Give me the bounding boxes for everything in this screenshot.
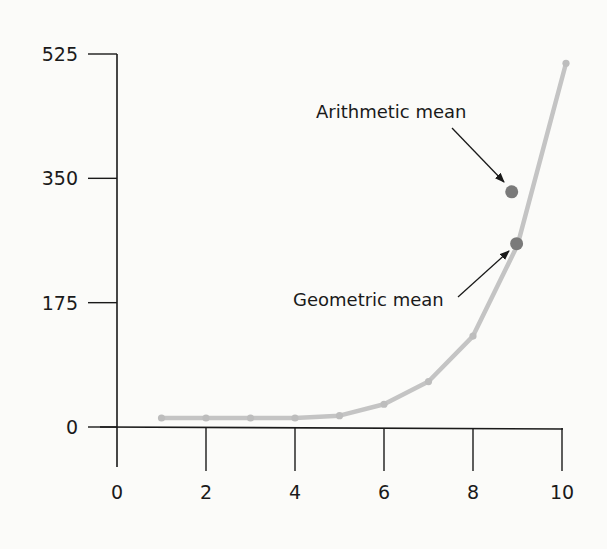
y-tick-label: 350 [42, 167, 78, 189]
data-point [336, 412, 343, 419]
data-point [425, 378, 432, 385]
x-axis [100, 427, 563, 429]
annotation-geometric-mean: Geometric mean [293, 251, 509, 310]
x-tick-label: 10 [550, 481, 574, 503]
x-tick-label: 4 [289, 481, 301, 503]
data-point [562, 60, 569, 67]
x-tick-label: 0 [111, 481, 123, 503]
geometric-mean-label: Geometric mean [293, 289, 444, 310]
y-tick-label: 0 [66, 416, 78, 438]
y-tick-label: 525 [42, 43, 78, 65]
chart: 0175350525 0246810 Arithmetic mean Geome… [0, 0, 607, 549]
y-ticks: 0175350525 [42, 43, 117, 438]
geometric-mean-dot [510, 237, 523, 250]
arithmetic-mean-arrow [452, 128, 504, 182]
data-point [469, 332, 476, 339]
x-ticks: 0246810 [111, 428, 574, 503]
data-point [380, 401, 387, 408]
arithmetic-mean-label: Arithmetic mean [316, 101, 467, 122]
x-tick-label: 8 [467, 481, 479, 503]
x-tick-label: 6 [378, 481, 390, 503]
data-point [291, 414, 298, 421]
y-tick-label: 175 [42, 292, 78, 314]
x-tick-label: 2 [200, 481, 212, 503]
data-point [158, 414, 165, 421]
data-point [247, 414, 254, 421]
annotation-arithmetic-mean: Arithmetic mean [316, 101, 504, 182]
data-point [202, 414, 209, 421]
mean-points [505, 185, 523, 250]
arithmetic-mean-dot [505, 185, 518, 198]
